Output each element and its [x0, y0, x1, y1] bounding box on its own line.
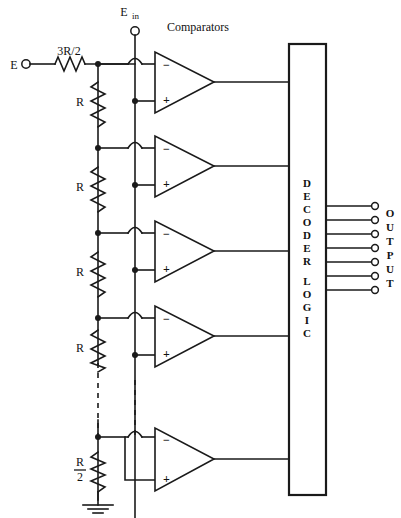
decoder-label-char-1: E — [303, 190, 310, 202]
decoder-label-char-8: L — [303, 275, 310, 287]
signal-input-terminal[interactable] — [131, 27, 139, 35]
comparator-1-plus-sign: + — [163, 93, 170, 107]
decoder-label-char-4: D — [303, 229, 311, 241]
junction-dot-ladder-3 — [95, 230, 101, 236]
decoder-label-char-9: O — [303, 288, 312, 300]
decoder-label-char-11: I — [305, 314, 309, 326]
decoder-output-lines — [326, 203, 378, 294]
output-label-char-5: T — [386, 277, 394, 289]
circuit-diagram-root: E E in Comparators 3R/2 R R R R — [0, 0, 401, 518]
output-label-char-3: P — [387, 249, 394, 261]
output-terminal-7[interactable] — [372, 287, 379, 294]
output-terminal-1[interactable] — [372, 203, 379, 210]
comparator-5-plus-sign: + — [163, 472, 170, 486]
ladder-resistor-3-label: R — [76, 265, 84, 279]
ladder-resistor-2-label: R — [76, 180, 84, 194]
junction-dot-ladder-4 — [95, 315, 101, 321]
output-terminal-6[interactable] — [372, 273, 379, 280]
decoder-logic-box[interactable] — [289, 44, 326, 495]
ladder-resistor-1-label: R — [76, 95, 84, 109]
comparator-4-minus-sign: − — [163, 312, 170, 326]
circuit-schematic-canvas: E E in Comparators 3R/2 R R R R — [0, 0, 401, 518]
ladder-resistor-4-label: R — [76, 341, 84, 355]
junction-dot-ladder-1 — [95, 61, 101, 67]
output-label-char-0: O — [386, 207, 395, 219]
plus-input-wire-5 — [125, 437, 155, 480]
decoder-label-char-6: R — [303, 255, 312, 267]
decoder-label-char-0: D — [303, 177, 311, 189]
signal-input-label: E — [120, 5, 127, 19]
output-terminal-5[interactable] — [372, 259, 379, 266]
output-label-char-2: T — [386, 235, 394, 247]
resistor-3r-over-2-symbol — [55, 57, 85, 71]
junction-dot-ein-3 — [132, 267, 138, 273]
reference-input-terminal[interactable] — [22, 60, 30, 68]
output-terminal-2[interactable] — [372, 217, 379, 224]
junction-dot-ein-2 — [132, 182, 138, 188]
comparator-1-minus-sign: − — [163, 58, 170, 72]
comparator-5-minus-sign: − — [163, 433, 170, 447]
output-terminal-4[interactable] — [372, 245, 379, 252]
reference-input-label: E — [10, 58, 17, 72]
comparator-3-minus-sign: − — [163, 227, 170, 241]
output-label: O U T P U T — [386, 207, 395, 289]
comparators-heading: Comparators — [167, 20, 229, 34]
comparator-4-plus-sign: + — [163, 347, 170, 361]
junction-dot-ladder-5 — [95, 434, 101, 440]
decoder-label-char-12: C — [303, 327, 311, 339]
comparator-2-minus-sign: − — [163, 142, 170, 156]
junction-dot-ladder-2 — [95, 145, 101, 151]
junction-dot-ein-1 — [132, 98, 138, 104]
junction-dot-ein-4 — [132, 352, 138, 358]
bottom-resistor-numerator: R — [76, 455, 84, 469]
output-label-char-4: U — [386, 263, 394, 275]
comparator-3-plus-sign: + — [163, 262, 170, 276]
decoder-label-char-3: O — [303, 216, 312, 228]
comparator-2-plus-sign: + — [163, 177, 170, 191]
bottom-resistor-denominator: 2 — [77, 470, 83, 484]
decoder-label-char-2: C — [303, 203, 311, 215]
output-terminal-3[interactable] — [372, 231, 379, 238]
decoder-label-char-10: G — [303, 301, 312, 313]
top-resistor-label: 3R/2 — [57, 44, 80, 58]
output-label-char-1: U — [386, 221, 394, 233]
signal-input-sublabel: in — [132, 11, 140, 21]
decoder-label-char-5: E — [303, 242, 310, 254]
